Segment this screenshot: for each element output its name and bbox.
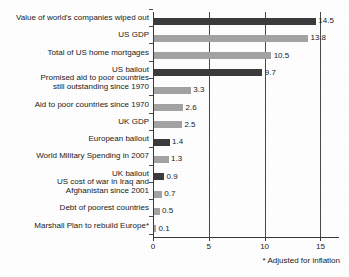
x-axis-tick-label: 10	[260, 242, 269, 251]
y-axis-tick	[149, 95, 153, 96]
bar-value-label: 0.9	[167, 172, 178, 181]
y-axis-tick	[149, 78, 153, 79]
category-label: US cost of war in Iraq and Afghanistan s…	[0, 177, 149, 196]
category-label: Marshall Plan to rebuild Europe*	[0, 221, 149, 231]
bar	[154, 208, 160, 215]
x-axis-tick-label: 5	[207, 242, 211, 251]
bar-value-label: 14.5	[318, 16, 334, 25]
category-label: UK GDP	[0, 117, 149, 127]
bar-value-label: 1.3	[171, 154, 182, 163]
category-label: Aid to poor countries since 1970	[0, 100, 149, 110]
category-label: Debt of poorest countries	[0, 203, 149, 213]
bar-chart: Value of world's companies wiped outUS G…	[0, 0, 349, 277]
y-axis-tick	[149, 130, 153, 131]
category-label: World Military Spending in 2007	[0, 151, 149, 161]
category-label: US GDP	[0, 30, 149, 40]
y-axis-tick	[149, 26, 153, 27]
y-axis-tick	[149, 147, 153, 148]
bar-value-label: 10.5	[274, 51, 290, 60]
bar	[154, 87, 191, 94]
x-axis-tick	[209, 238, 210, 241]
bar-value-label: 0.5	[162, 206, 173, 215]
y-axis-tick	[149, 216, 153, 217]
category-label: Value of world's companies wiped out	[0, 13, 149, 23]
y-axis-tick	[149, 9, 153, 10]
footnote: * Adjusted for inflation	[263, 256, 340, 265]
x-axis-tick-label: 15	[316, 242, 325, 251]
x-axis-tick	[265, 238, 266, 241]
bar	[154, 173, 164, 180]
y-axis-tick	[149, 61, 153, 62]
bar-value-label: 0.1	[159, 224, 170, 233]
bar	[154, 104, 183, 111]
x-axis-tick-label: 0	[151, 242, 155, 251]
bar	[154, 69, 262, 76]
bar-value-label: 3.3	[193, 85, 204, 94]
x-axis-line	[153, 237, 339, 238]
bar	[154, 121, 182, 128]
gridline-10	[265, 12, 266, 237]
bar	[154, 156, 169, 163]
y-axis-tick	[149, 165, 153, 166]
bar-value-label: 0.7	[164, 189, 175, 198]
x-axis-tick	[153, 238, 154, 241]
category-label: Total of US home mortgages	[0, 48, 149, 58]
category-label: European bailout	[0, 134, 149, 144]
y-axis-tick	[149, 182, 153, 183]
bar	[154, 18, 316, 25]
bar-value-label: 2.5	[184, 120, 195, 129]
y-axis-tick	[149, 234, 153, 235]
bar	[154, 35, 308, 42]
y-axis-tick	[149, 113, 153, 114]
bar	[154, 139, 170, 146]
gridline-15	[320, 12, 321, 237]
y-axis-tick	[149, 43, 153, 44]
bar	[154, 191, 162, 198]
bar-value-label: 9.7	[265, 68, 276, 77]
bar	[154, 225, 156, 232]
category-label: Promised aid to poor countries still out…	[0, 73, 149, 92]
gridline-5	[209, 12, 210, 237]
bar-value-label: 13.8	[311, 33, 327, 42]
bar-value-label: 2.6	[186, 103, 197, 112]
y-axis-tick	[149, 199, 153, 200]
bar	[154, 52, 271, 59]
x-axis-tick	[320, 238, 321, 241]
bar-value-label: 1.4	[172, 137, 183, 146]
